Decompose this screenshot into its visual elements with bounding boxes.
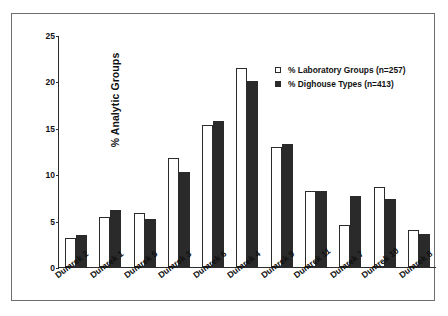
x-axis-label-slot: Dumrek 11 <box>299 270 333 316</box>
x-axis-label-slot: Dumrek 10 <box>367 270 401 316</box>
bar-group <box>162 36 196 267</box>
legend-item-label: % Dighouse Types (n=413) <box>288 79 394 89</box>
bar-group <box>59 36 93 267</box>
figure-frame: % Analytic Groups 0510152025 % Laborator… <box>11 13 435 301</box>
y-axis-tick-label: 10 <box>25 170 55 180</box>
bar-group <box>196 36 230 267</box>
legend-item: % Laboratory Groups (n=257) <box>275 63 406 77</box>
x-axis-label-slot: Dumrek 1 <box>92 270 126 316</box>
bar-group <box>230 36 264 267</box>
bar-dighouse-types <box>213 121 224 267</box>
open-square-icon <box>275 67 281 73</box>
x-axis-label-slot: Dumrek 4 <box>230 270 264 316</box>
y-axis-tick-label: 5 <box>25 217 55 227</box>
chart-legend: % Laboratory Groups (n=257)% Dighouse Ty… <box>275 63 406 91</box>
bar-group <box>93 36 127 267</box>
bar-laboratory-groups <box>168 158 179 268</box>
bar-laboratory-groups <box>236 68 247 267</box>
x-axis-label-slot: Dumrek 6 <box>195 270 229 316</box>
bar-group <box>402 36 436 267</box>
plot-area: % Analytic Groups 0510152025 % Laborator… <box>58 36 436 268</box>
bar-laboratory-groups <box>271 147 282 267</box>
legend-item: % Dighouse Types (n=413) <box>275 77 406 91</box>
x-axis-label-slot: Dumrek 3 <box>161 270 195 316</box>
y-axis-tick-label: 0 <box>25 263 55 273</box>
x-axis-label-slot: Dumrek 9 <box>264 270 298 316</box>
y-axis-tick-label: 20 <box>25 77 55 87</box>
filled-square-icon <box>275 81 281 87</box>
legend-item-label: % Laboratory Groups (n=257) <box>288 65 406 75</box>
x-axis-label-slot: Dumrek 8 <box>402 270 436 316</box>
bar-dighouse-types <box>247 81 258 267</box>
bar-laboratory-groups <box>202 125 213 267</box>
y-axis-tick-label: 15 <box>25 124 55 134</box>
x-axis-label-slot: Dumrek 2 <box>58 270 92 316</box>
x-axis-label-slot: Dumrek 5 <box>127 270 161 316</box>
x-axis-labels: Dumrek 2Dumrek 1Dumrek 5Dumrek 3Dumrek 6… <box>58 270 436 316</box>
y-axis-tick-label: 25 <box>25 31 55 41</box>
bar-group <box>128 36 162 267</box>
